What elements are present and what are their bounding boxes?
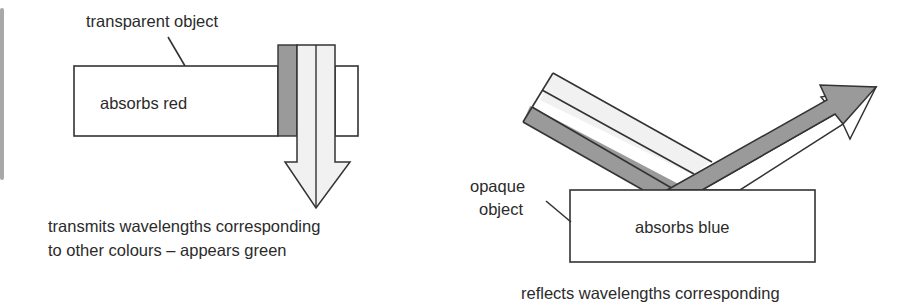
opaque-object-leader-line bbox=[546, 201, 571, 222]
opaque-object-label-line2: object bbox=[479, 200, 523, 218]
left-edge-bar bbox=[0, 8, 4, 180]
reflected-light-arrow-dark bbox=[667, 85, 876, 190]
light-absorption-diagram: transparent object absorbs red transmits… bbox=[0, 0, 907, 305]
absorbs-blue-label: absorbs blue bbox=[635, 218, 729, 236]
absorbed-red-band bbox=[278, 45, 297, 136]
opaque-object-label-line1: opaque bbox=[470, 177, 525, 195]
transparent-object-leader-line bbox=[168, 37, 185, 66]
transmits-caption-line2: to other colours – appears green bbox=[48, 241, 287, 259]
transparent-object-panel: transparent object absorbs red transmits… bbox=[48, 12, 358, 259]
reflects-caption-line1: reflects wavelengths corresponding bbox=[521, 284, 780, 302]
opaque-object-panel: absorbs blue opaque object reflects wave… bbox=[470, 73, 876, 302]
transmits-caption-line1: transmits wavelengths corresponding bbox=[48, 217, 320, 235]
transparent-object-block-right bbox=[335, 66, 358, 136]
transparent-object-label: transparent object bbox=[86, 12, 218, 30]
absorbs-red-label: absorbs red bbox=[100, 94, 187, 112]
